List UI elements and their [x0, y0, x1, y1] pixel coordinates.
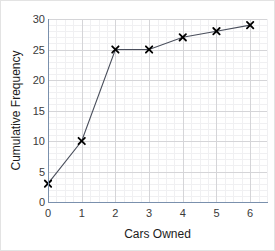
x-axis-line: [48, 202, 268, 203]
x-tick-label: 0: [33, 208, 63, 219]
x-tick-label: 2: [100, 208, 130, 219]
x-axis-tick-labels: 0123456: [48, 208, 267, 222]
cumulative-frequency-chart: 051015202530 0123456 Cumulative Frequenc…: [0, 0, 275, 251]
x-tick-label: 5: [201, 208, 231, 219]
gridline-minor-vertical: [267, 19, 268, 202]
x-tick-label: 6: [235, 208, 265, 219]
y-axis-title-wrap: Cumulative Frequency: [7, 19, 25, 202]
x-tick-label: 4: [168, 208, 198, 219]
data-series-layer: [48, 19, 267, 202]
x-tick-label: 3: [134, 208, 164, 219]
x-axis-title: Cars Owned: [48, 227, 267, 241]
y-axis-title: Cumulative Frequency: [7, 19, 25, 202]
data-point-marker: [78, 138, 84, 144]
y-axis-line: [48, 19, 49, 203]
x-tick-label: 1: [67, 208, 97, 219]
plot-area: [48, 19, 267, 202]
